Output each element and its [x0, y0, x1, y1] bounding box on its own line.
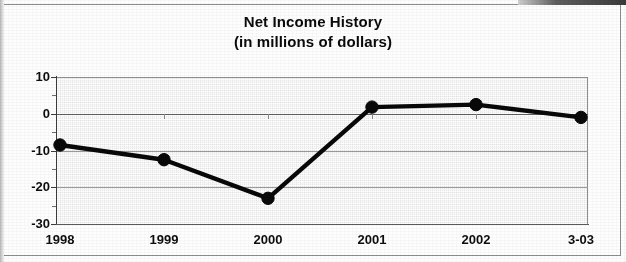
chart-title-block: Net Income History (in millions of dolla… — [0, 12, 626, 52]
chart-title: Net Income History — [0, 12, 626, 32]
scan-edge-artifact-left — [0, 0, 4, 262]
data-point-2002 — [470, 98, 482, 110]
chart-figure: Net Income History (in millions of dolla… — [0, 0, 626, 262]
data-point-2000 — [262, 192, 274, 204]
data-point-3-03 — [575, 111, 587, 123]
data-point-1999 — [158, 154, 170, 166]
series-line-net-income — [60, 105, 581, 199]
data-point-1998 — [54, 139, 66, 151]
chart-subtitle: (in millions of dollars) — [0, 32, 626, 52]
data-point-2001 — [366, 101, 378, 113]
scan-edge-artifact-top — [518, 0, 626, 5]
